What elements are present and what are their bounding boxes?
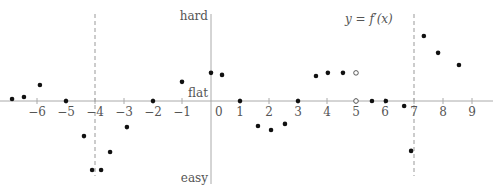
y-label-easy: easy [181,171,208,185]
filled-point [269,128,274,133]
filled-point [238,99,243,104]
filled-point [370,99,375,104]
x-tick-label: −3 [115,105,133,119]
filled-point [422,34,427,39]
filled-point [125,125,130,130]
filled-point [341,71,346,76]
x-tick-label: 3 [294,105,302,119]
data-points [10,34,461,173]
y-label-flat: flat [188,86,208,100]
x-tick-label: −2 [144,105,162,119]
x-tick-label: 0 [215,105,223,119]
filled-point [151,99,156,104]
filled-point [38,83,43,88]
filled-point [457,63,462,68]
filled-point [90,168,95,173]
filled-point [314,74,319,79]
x-tick-label: 4 [323,105,331,119]
filled-point [402,104,407,109]
scatter-chart: −6−5−4−3−2−10123456789 hard flat easy y … [0,0,493,193]
filled-point [82,134,87,139]
filled-point [220,73,225,78]
x-tick-label: 9 [468,105,476,119]
x-tick-label: 2 [265,105,273,119]
x-tick-label: −5 [57,105,75,119]
open-point [354,99,359,104]
filled-point [64,99,69,104]
chart-title: y = f′(x) [344,12,393,26]
x-tick-label: 1 [236,105,244,119]
filled-point [99,168,104,173]
filled-point [283,122,288,127]
filled-point [22,95,27,100]
filled-point [436,51,441,56]
x-tick-label: 8 [439,105,447,119]
x-tick-label: 5 [352,105,360,119]
x-tick-label: 7 [410,105,418,119]
filled-point [209,71,214,76]
dashed-reference-lines [95,14,414,176]
open-point [354,71,359,76]
x-tick-label: −4 [86,105,104,119]
y-label-hard: hard [180,9,209,23]
plot-area: −6−5−4−3−2−10123456789 hard flat easy y … [0,0,493,193]
filled-point [296,99,301,104]
x-tick-label: −6 [28,105,46,119]
filled-point [326,71,331,76]
x-tick-label: −1 [173,105,191,119]
filled-point [180,80,185,85]
x-tick-label: 6 [381,105,389,119]
filled-point [108,150,113,155]
filled-point [384,99,389,104]
filled-point [409,149,414,154]
filled-point [10,97,15,102]
filled-point [256,124,261,129]
